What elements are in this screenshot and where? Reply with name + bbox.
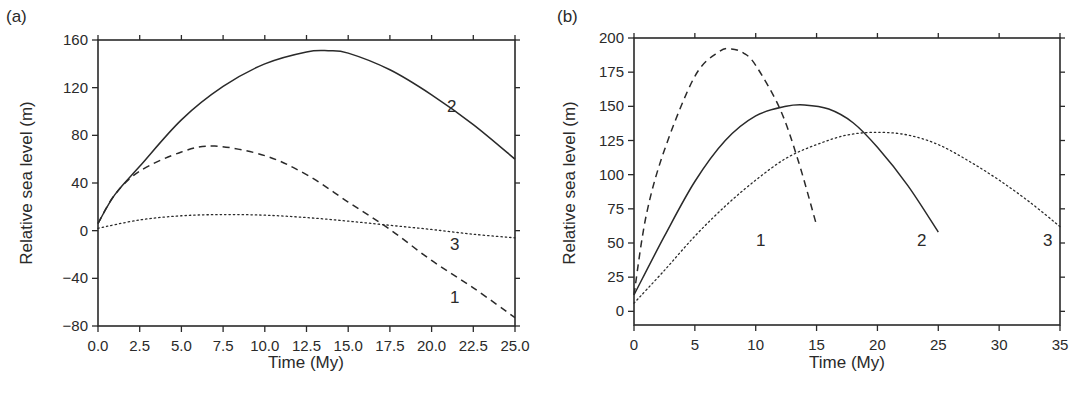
panel-a-y-tick-label: −80 — [63, 317, 88, 334]
panel-a-y-tick-label: 0 — [80, 222, 88, 239]
panel-b-curve-3 — [634, 132, 1060, 303]
panel-a-y-tick-label: 160 — [63, 31, 88, 48]
panel-a-y-tick-label: −40 — [63, 269, 88, 286]
panel-b-y-tick-label: 25 — [607, 268, 624, 285]
panel-a-y-tick-label: 120 — [63, 79, 88, 96]
panel-a-x-tick-label: 15.0 — [334, 337, 363, 354]
panel-a-x-tick-label: 12.5 — [292, 337, 321, 354]
panel-b-x-tick-label: 35 — [1052, 336, 1069, 353]
panel-a-curve-label-3: 3 — [450, 235, 459, 254]
panel-b-y-tick-label: 75 — [607, 200, 624, 217]
panel-a-x-tick-label: 5.0 — [171, 337, 192, 354]
sea-level-figure: (a) 0.02.55.07.510.012.515.017.520.022.5… — [0, 0, 1092, 399]
panel-b-x-tick-label: 0 — [630, 336, 638, 353]
panel-b-ticks: 051015202530350255075100125150175200 — [599, 29, 1068, 353]
panel-a-curve-2 — [98, 50, 515, 223]
panel-a-x-tick-label: 2.5 — [129, 337, 150, 354]
panel-b-y-tick-label: 100 — [599, 166, 624, 183]
panel-a-chart: (a) 0.02.55.07.510.012.515.017.520.022.5… — [6, 7, 530, 372]
panel-a-x-tick-label: 25.0 — [500, 337, 529, 354]
panel-b-curves: 123 — [634, 48, 1060, 303]
panel-b-curve-label-1: 1 — [756, 231, 765, 250]
panel-a-x-tick-label: 0.0 — [88, 337, 109, 354]
panel-b-y-tick-label: 50 — [607, 234, 624, 251]
panel-a-x-tick-label: 7.5 — [213, 337, 234, 354]
panel-b-x-axis-title: Time (My) — [809, 353, 885, 372]
panel-b-x-tick-label: 25 — [930, 336, 947, 353]
panel-a-y-axis-title: Relative sea level (m) — [17, 101, 36, 264]
panel-b-y-tick-label: 175 — [599, 63, 624, 80]
panel-b-x-tick-label: 10 — [747, 336, 764, 353]
panel-a-x-axis-title: Time (My) — [268, 353, 344, 372]
panel-b-y-axis-title: Relative sea level (m) — [560, 101, 579, 264]
panel-a-y-tick-label: 80 — [71, 126, 88, 143]
panel-a-x-tick-label: 17.5 — [375, 337, 404, 354]
panel-a-x-tick-label: 22.5 — [459, 337, 488, 354]
panel-a-curve-label-1: 1 — [450, 288, 459, 307]
panel-b-y-tick-label: 0 — [616, 302, 624, 319]
panel-b-x-tick-label: 15 — [808, 336, 825, 353]
panel-b-curve-1 — [634, 48, 817, 294]
panel-b-x-tick-label: 20 — [869, 336, 886, 353]
panel-b-x-tick-label: 5 — [691, 336, 699, 353]
panel-a-y-tick-label: 40 — [71, 174, 88, 191]
panel-a-x-tick-label: 10.0 — [250, 337, 279, 354]
panel-b-curve-label-3: 3 — [1043, 231, 1052, 250]
panel-b-y-tick-label: 150 — [599, 97, 624, 114]
panel-b-y-tick-label: 200 — [599, 29, 624, 46]
panel-a-ticks: 0.02.55.07.510.012.515.017.520.022.525.0… — [63, 31, 530, 354]
panel-a-label: (a) — [6, 7, 27, 26]
panel-b-y-tick-label: 125 — [599, 132, 624, 149]
panel-a-x-tick-label: 20.0 — [417, 337, 446, 354]
panel-a-plot-frame — [98, 40, 515, 326]
panel-b-curve-label-2: 2 — [917, 231, 926, 250]
panel-b-chart: (b) 051015202530350255075100125150175200… — [557, 7, 1068, 372]
panel-a-curve-label-2: 2 — [447, 97, 456, 116]
panel-b-plot-frame — [634, 38, 1060, 325]
panel-b-x-tick-label: 30 — [991, 336, 1008, 353]
panel-b-label: (b) — [557, 7, 578, 26]
panel-a-curves: 123 — [98, 50, 515, 317]
